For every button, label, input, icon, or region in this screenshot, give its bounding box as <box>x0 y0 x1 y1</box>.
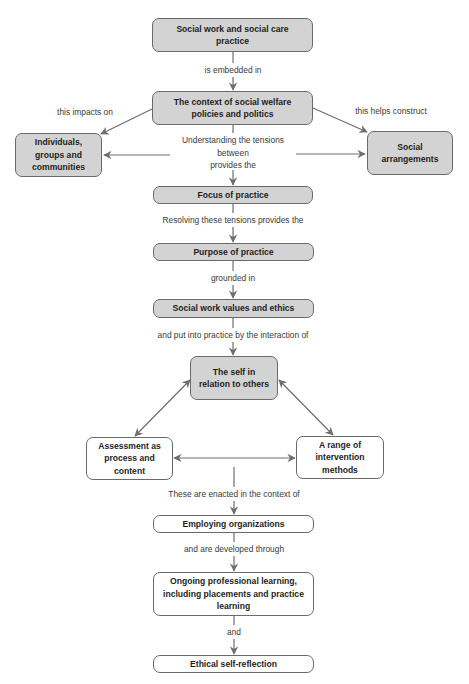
node-purpose: Purpose of practice <box>153 243 314 261</box>
edge-label-impacts: this impacts on <box>40 106 130 119</box>
node-focus: Focus of practice <box>153 186 313 204</box>
node-individuals: Individuals, groups and communities <box>15 133 102 177</box>
node-self-relation: The self in relation to others <box>190 356 278 400</box>
node-ethical-reflection: Ethical self-reflection <box>153 655 314 673</box>
node-ongoing-learning: Ongoing professional learning, including… <box>153 572 314 616</box>
concept-map: Social work and social care practice The… <box>0 0 469 684</box>
edge-label-enacted: These are enacted in the context of <box>144 488 324 501</box>
node-employing: Employing organizations <box>153 515 314 533</box>
node-context-welfare: The context of social welfare policies a… <box>152 91 313 125</box>
arrow-self-intervention <box>279 380 333 435</box>
node-social-work-practice: Social work and social care practice <box>152 18 313 52</box>
node-social-arrangements: Social arrangements <box>367 131 453 175</box>
edge-label-embedded: is embedded in <box>183 64 283 77</box>
edge-label-developed: and are developed through <box>164 543 304 556</box>
edge-label-grounded: grounded in <box>183 272 283 285</box>
edge-label-tensions-2: between <box>163 147 303 160</box>
edge-label-and: and <box>209 626 259 639</box>
edge-label-tensions-1: Understanding the tensions <box>163 134 303 147</box>
edge-label-constructs: this helps construct <box>340 105 442 118</box>
arrow-self-assessment <box>135 380 190 436</box>
edge-label-tensions-3: provides the <box>163 159 303 172</box>
node-values-ethics: Social work values and ethics <box>153 299 314 318</box>
edge-label-resolving: Resolving these tensions provides the <box>133 214 333 227</box>
node-assessment: Assessment as process and content <box>86 437 173 480</box>
edge-label-put-into-practice: and put into practice by the interaction… <box>123 329 343 342</box>
node-intervention: A range of intervention methods <box>296 436 384 479</box>
